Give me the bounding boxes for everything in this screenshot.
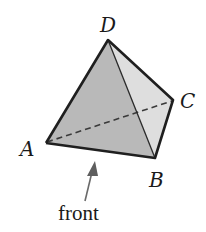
vertex-label-d: D xyxy=(99,13,116,37)
vertex-label-c: C xyxy=(180,89,195,113)
front-caption: front xyxy=(58,201,99,225)
vertex-label-b: B xyxy=(148,168,164,192)
front-arrow-icon xyxy=(85,161,98,201)
vertex-label-a: A xyxy=(18,137,34,161)
tetrahedron-diagram: D C A B front xyxy=(0,0,206,232)
